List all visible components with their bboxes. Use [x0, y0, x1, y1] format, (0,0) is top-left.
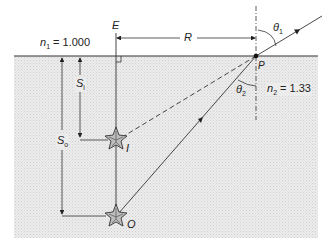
- n1-label: n1 = 1.000: [40, 37, 90, 50]
- label-R: R: [184, 32, 192, 43]
- label-P: P: [258, 61, 265, 71]
- theta2-subscript: 2: [242, 90, 246, 97]
- S_i-label: Si: [75, 78, 86, 91]
- theta2-label: θ2: [236, 84, 246, 97]
- n2-value: = 1.33: [280, 82, 311, 94]
- label-E: E: [112, 20, 119, 31]
- n2-subscript: 2: [273, 89, 277, 96]
- incident-ray: [256, 16, 322, 56]
- theta1-subscript: 1: [279, 28, 283, 35]
- n2-label: n2 = 1.33: [266, 83, 312, 96]
- n1-subscript: 1: [46, 43, 50, 50]
- S_i-subscript: i: [83, 84, 85, 91]
- label-O: O: [127, 219, 136, 230]
- label-I: I: [126, 143, 129, 154]
- theta1-label: θ1: [273, 22, 283, 35]
- n1-value: = 1.000: [53, 36, 90, 48]
- S_o-label: So: [56, 135, 69, 148]
- S_o-subscript: o: [64, 141, 68, 148]
- point-P: [254, 54, 259, 59]
